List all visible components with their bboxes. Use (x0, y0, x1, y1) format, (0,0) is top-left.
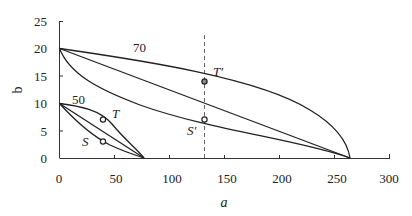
annotations: 70 50 T S T′ S′ (72, 40, 223, 149)
x-tick-label: 200 (272, 171, 292, 186)
point-T (100, 117, 105, 122)
point-S-prime (202, 117, 207, 122)
x-tick-label: 50 (110, 171, 123, 186)
curve-50-straight (60, 104, 145, 159)
y-tick-label: 20 (34, 41, 47, 56)
x-tick-label: 0 (56, 171, 63, 186)
point-S (100, 139, 105, 144)
curve-group-50 (60, 104, 145, 159)
y-tick-label: 0 (41, 151, 48, 166)
x-axis-title: a (221, 195, 228, 210)
x-tick-label: 300 (379, 171, 399, 186)
y-tick-label: 25 (34, 14, 47, 29)
y-tick-label: 5 (41, 124, 48, 139)
x-tick-label: 250 (327, 171, 347, 186)
label-S: S (82, 134, 89, 149)
chart-svg: 25 20 15 10 5 0 0 50 100 150 200 250 300… (0, 0, 412, 216)
y-axis-title: b (10, 87, 25, 94)
x-tick-labels: 0 50 100 150 200 250 300 (56, 171, 399, 186)
label-T: T (112, 106, 120, 121)
y-tick-label: 10 (34, 96, 47, 111)
label-70: 70 (133, 40, 146, 55)
y-tick-label: 15 (34, 69, 47, 84)
y-tick-labels: 25 20 15 10 5 0 (34, 14, 47, 166)
label-50: 50 (72, 92, 85, 107)
axes (60, 21, 391, 159)
point-T-prime (202, 79, 207, 84)
x-tick-label: 100 (162, 171, 182, 186)
chart-container: 25 20 15 10 5 0 0 50 100 150 200 250 300… (0, 0, 412, 216)
x-tick-label: 150 (217, 171, 237, 186)
label-S-prime: S′ (187, 123, 197, 138)
label-T-prime: T′ (213, 64, 223, 79)
